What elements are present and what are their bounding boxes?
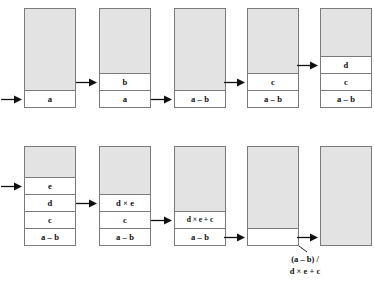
stack-step-step-5: dca – b (296, 4, 374, 136)
stack-cell: c (248, 73, 298, 90)
stack-step-step-8: d × e + ca – b (150, 142, 228, 274)
stack-cell: e (25, 177, 75, 194)
stack-cell: a (100, 90, 150, 107)
stack-pointer-arrow-icon (151, 215, 173, 226)
stack-cell: d × e + c (175, 211, 225, 228)
stack-box (320, 146, 372, 246)
stack-pointer-arrow-icon (297, 232, 319, 243)
stack-cell: a – b (248, 90, 298, 107)
stack-pointer-arrow-icon (1, 94, 23, 105)
stack-cell: a – b (175, 228, 225, 245)
stack-box (247, 146, 299, 246)
stack-cell: c (321, 73, 371, 90)
stack-box: d × eca – b (99, 146, 151, 246)
stack-cell: d (321, 56, 371, 73)
stack-box: dca – b (320, 8, 372, 108)
stack-step-step-1: a (0, 4, 78, 136)
stack-cell (248, 228, 298, 245)
stack-cell: d (25, 194, 75, 211)
stack-cell: b (100, 73, 150, 90)
stack-cell: c (25, 211, 75, 228)
stack-box: ca – b (247, 8, 299, 108)
stack-step-step-2: ba (75, 4, 153, 136)
stack-cell: d × e (100, 194, 150, 211)
stack-box: a (24, 8, 76, 108)
stack-pointer-arrow-icon (224, 232, 246, 243)
stack-cell: a – b (321, 90, 371, 107)
stack-pointer-arrow-icon (151, 94, 173, 105)
stack-pointer-arrow-icon (1, 181, 23, 192)
stack-step-step-3: a – b (150, 4, 228, 136)
bottom-row: edca – bd × eca – bd × e + ca – b(a – b)… (0, 142, 371, 274)
stack-cell: a (25, 90, 75, 107)
stack-cell: a – b (25, 228, 75, 245)
stack-pointer-arrow-icon (76, 198, 98, 209)
stack-box: ba (99, 8, 151, 108)
top-row: abaa – bca – bdca – b (0, 4, 371, 136)
stack-cell: a – b (100, 228, 150, 245)
stack-pointer-arrow-icon (224, 77, 246, 88)
stack-cell: c (100, 211, 150, 228)
stack-cell: a – b (175, 90, 225, 107)
stack-step-step-10 (296, 142, 374, 274)
stack-box: d × e + ca – b (174, 146, 226, 246)
stack-box: edca – b (24, 146, 76, 246)
stack-step-step-6: edca – b (0, 142, 78, 274)
stack-box: a – b (174, 8, 226, 108)
stack-step-step-4: ca – b (223, 4, 301, 136)
stack-step-step-7: d × eca – b (75, 142, 153, 274)
stack-pointer-arrow-icon (297, 60, 319, 71)
stack-pointer-arrow-icon (76, 77, 98, 88)
stack-step-step-9 (223, 142, 301, 274)
